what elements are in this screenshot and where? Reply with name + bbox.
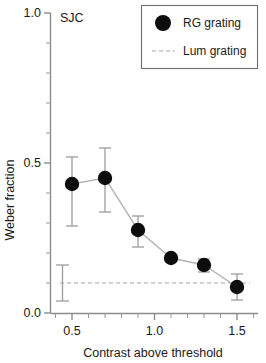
x-tick-label-0.5: 0.5	[63, 324, 80, 338]
data-point-marker	[230, 280, 244, 294]
legend: RG grating Lum grating	[142, 6, 258, 69]
x-tick-label-1.0: 1.0	[146, 324, 163, 338]
figure-panel: 1.0 0.5 0.0 0.5 1.0 1.5 Contrast above t…	[0, 0, 266, 363]
y-tick-label-top: 1.0	[24, 6, 41, 20]
y-tick-label-mid: 0.5	[24, 156, 41, 170]
y-tick-label-bottom: 0.0	[24, 306, 41, 320]
rg-grating-series-line	[72, 178, 237, 287]
data-point-marker	[197, 258, 211, 272]
data-point-marker	[131, 223, 145, 237]
legend-marker-rg-grating-icon	[155, 15, 171, 31]
legend-label-rg-grating: RG grating	[183, 16, 241, 30]
weber-fraction-chart: 1.0 0.5 0.0 0.5 1.0 1.5 Contrast above t…	[0, 0, 266, 363]
legend-box	[142, 6, 258, 69]
x-axis-title: Contrast above threshold	[83, 346, 223, 360]
data-point-marker	[164, 251, 178, 265]
data-point-marker	[65, 177, 79, 191]
y-axis-title: Weber fraction	[3, 159, 17, 240]
rg-errorbar-1	[66, 157, 78, 226]
legend-label-lum-grating: Lum grating	[183, 44, 246, 58]
x-tick-label-1.5: 1.5	[228, 324, 245, 338]
panel-subject-label: SJC	[60, 11, 84, 25]
data-point-marker	[98, 171, 112, 185]
